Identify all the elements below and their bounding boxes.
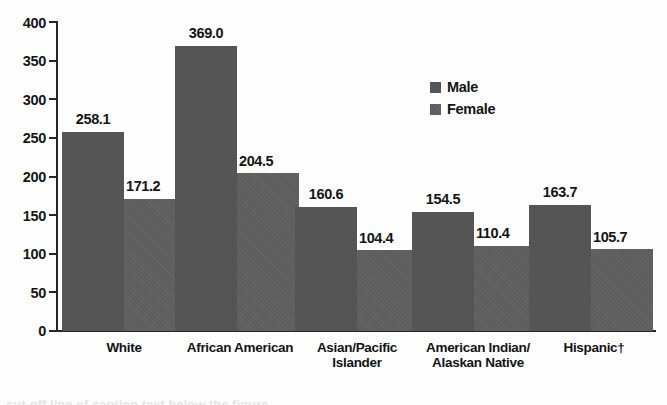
y-tick-label: 200 — [2, 170, 46, 185]
legend-label-female: Female — [447, 102, 495, 117]
y-tick-label: 100 — [2, 247, 46, 262]
bar-value-white-female: 171.2 — [126, 179, 160, 194]
caption-remnant: cut-off line of caption text below the f… — [6, 398, 661, 405]
bar-african-american-male — [175, 46, 237, 331]
legend-item-male: Male — [430, 76, 495, 98]
bar-value-white-male: 258.1 — [76, 112, 110, 127]
bar-hispanic-male — [529, 205, 591, 332]
x-category-label-line1: African American — [187, 340, 294, 355]
bar-african-american-female — [237, 173, 299, 331]
bar-value-hispanic-female: 105.7 — [593, 230, 627, 245]
plot-area: 258.1 171.2 369.0 204.5 160.6 104.4 154.… — [57, 22, 655, 331]
male-swatch-icon — [430, 82, 441, 93]
bar-value-american-indian-alaskan-native-male: 154.5 — [426, 192, 460, 207]
y-axis-tick-labels: 400 350 300 250 200 150 100 50 0 — [0, 0, 46, 405]
x-category-label-hispanic: Hispanic† — [532, 340, 656, 355]
bar-value-asian-pacific-islander-female: 104.4 — [359, 231, 393, 246]
x-category-label-line2: Alaskan Native — [408, 355, 548, 370]
bar-value-hispanic-male: 163.7 — [543, 185, 577, 200]
bar-group-hispanic: 163.7 105.7 — [529, 22, 653, 331]
bar-group-asian-pacific-islander: 160.6 104.4 — [295, 22, 419, 331]
y-tick-label: 50 — [2, 286, 46, 301]
y-tick-label: 400 — [2, 16, 46, 31]
x-category-label-african-american: African American — [165, 340, 315, 355]
bar-group-white: 258.1 171.2 — [62, 22, 186, 331]
y-tick-label: 350 — [2, 54, 46, 69]
x-category-label-line1: American Indian/ — [426, 340, 530, 355]
female-swatch-icon — [430, 104, 441, 115]
x-category-label-line1: Hispanic† — [563, 340, 624, 355]
bar-asian-pacific-islander-male — [295, 207, 357, 331]
y-tick-label: 150 — [2, 209, 46, 224]
x-category-label-line1: Asian/Pacific — [317, 340, 397, 355]
bar-american-indian-alaskan-native-female — [474, 246, 536, 331]
x-category-label-line2: Islander — [295, 355, 419, 370]
bar-value-asian-pacific-islander-male: 160.6 — [309, 187, 343, 202]
x-category-label-american-indian-alaskan-native: American Indian/ Alaskan Native — [408, 340, 548, 370]
y-tick-label: 0 — [2, 324, 46, 339]
bar-group-american-indian-alaskan-native: 154.5 110.4 — [412, 22, 536, 331]
bar-hispanic-female — [591, 249, 653, 331]
bar-value-african-american-male: 369.0 — [189, 26, 223, 41]
legend-item-female: Female — [430, 98, 495, 120]
legend: Male Female — [430, 76, 495, 120]
bar-chart-figure: 400 350 300 250 200 150 100 50 0 258.1 1… — [0, 0, 667, 405]
y-tick-label: 250 — [2, 131, 46, 146]
bar-value-american-indian-alaskan-native-female: 110.4 — [476, 226, 510, 241]
x-category-label-asian-pacific-islander: Asian/Pacific Islander — [295, 340, 419, 370]
x-category-label-line1: White — [106, 340, 141, 355]
bar-group-african-american: 369.0 204.5 — [175, 22, 299, 331]
bar-american-indian-alaskan-native-male — [412, 212, 474, 331]
bar-white-male — [62, 132, 124, 331]
y-tick-label: 300 — [2, 93, 46, 108]
bar-value-african-american-female: 204.5 — [239, 154, 273, 169]
bar-asian-pacific-islander-female — [357, 250, 419, 331]
legend-label-male: Male — [447, 80, 478, 95]
